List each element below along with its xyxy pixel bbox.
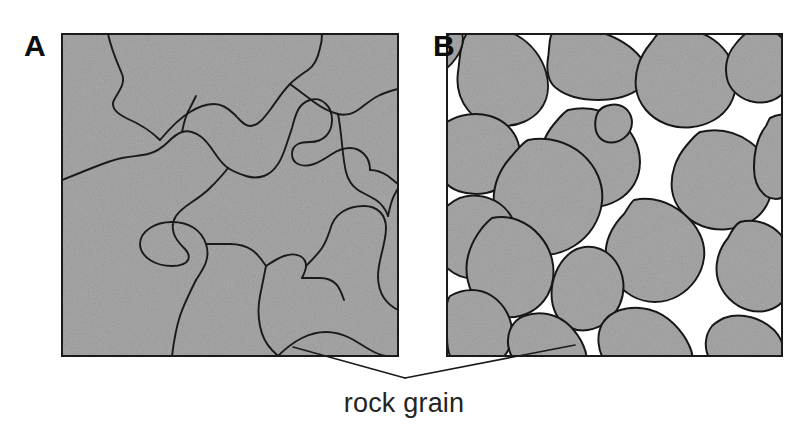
panel-a-grains	[62, 34, 398, 356]
panel-b-group	[446, 28, 784, 360]
figure-root: A B rock grain	[0, 0, 808, 439]
panel-a-label: A	[24, 31, 46, 61]
grain	[595, 104, 632, 142]
rock-grain-caption: rock grain	[0, 386, 808, 420]
panel-b-label: B	[433, 31, 455, 61]
rock-texture-figure	[0, 0, 808, 439]
panel-a-group	[62, 34, 398, 356]
panel-a-matrix	[62, 34, 398, 356]
